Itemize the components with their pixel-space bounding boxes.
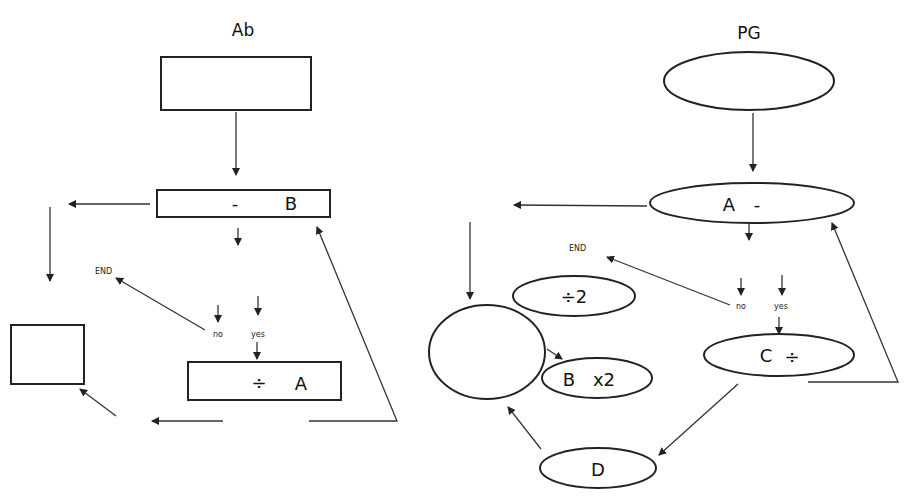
arrow-d-to-circle (508, 407, 541, 449)
arrow-loop-back-ab (309, 227, 397, 421)
pg-op-divide: ÷ (784, 346, 799, 367)
ab-subtract-b-box (157, 190, 330, 217)
diagram-title-pg: PG (737, 23, 760, 43)
ab-no-label: no (213, 330, 223, 339)
arrow-a-subtract-left (514, 205, 647, 206)
arrow-to-output-box (80, 389, 116, 416)
arrow-circle-to-b (547, 349, 562, 359)
ab-end-label: END (95, 267, 112, 276)
pg-c-divide-ellipse (704, 334, 854, 376)
arrow-pg-no-to-end (607, 257, 730, 305)
flowchart-canvas: Ab - B END no yes ÷ A PG A - (0, 0, 914, 504)
ab-yes-label: yes (251, 330, 265, 339)
ab-start-box (161, 57, 311, 110)
ab-operand-a: A (295, 373, 308, 394)
pg-operand-a: A (723, 194, 736, 215)
diagram-pg: PG A - END no yes C ÷ ÷2 B x2 D (429, 23, 898, 488)
diagram-ab: Ab - B END no yes ÷ A (11, 20, 397, 421)
pg-op-minus: - (754, 194, 761, 215)
pg-end-label: END (569, 244, 586, 253)
arrow-c-to-d (659, 384, 738, 455)
pg-circle (429, 305, 545, 399)
ab-output-box (11, 325, 84, 384)
pg-operand-b: B (563, 369, 575, 390)
ab-op-minus: - (232, 193, 239, 214)
pg-a-subtract-ellipse (650, 183, 854, 223)
ab-op-divide: ÷ (251, 372, 266, 393)
pg-yes-label: yes (774, 302, 788, 311)
pg-divide-2-label: ÷2 (561, 286, 588, 307)
arrow-no-to-end (116, 278, 205, 330)
diagram-title-ab: Ab (232, 20, 254, 40)
pg-start-ellipse (664, 52, 834, 110)
pg-d-label: D (591, 459, 605, 480)
pg-operand-c: C (760, 345, 773, 366)
ab-operand-b: B (285, 193, 297, 214)
pg-no-label: no (736, 302, 746, 311)
pg-op-times-2: x2 (593, 369, 615, 390)
